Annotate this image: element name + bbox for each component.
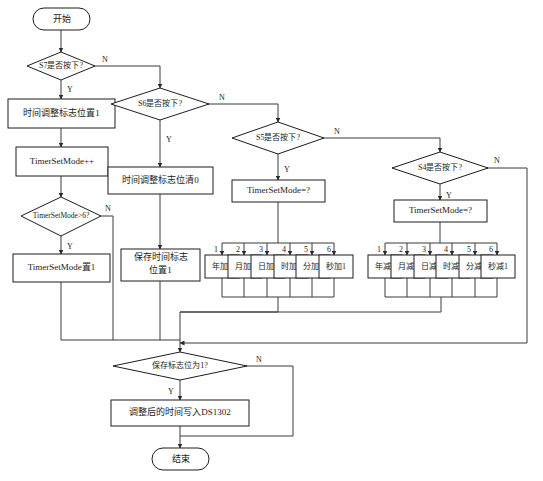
- node-end-label: 结束: [172, 453, 190, 464]
- edge-label-s5-no: N: [334, 127, 340, 136]
- bus-inc-to-merge: [180, 297, 278, 312]
- node-decision-saveflag-label: 保存标志位为1?: [152, 360, 208, 370]
- case-label-inc-6: 6: [327, 245, 331, 254]
- case-label-dec-5: 5: [467, 245, 471, 254]
- edge-s6-no: [208, 104, 278, 122]
- case-label-inc-5: 5: [304, 245, 308, 254]
- edge-s5-no: [323, 138, 440, 152]
- case-label-inc-3: 3: [259, 245, 263, 254]
- case-label-dec-2: 2: [399, 245, 403, 254]
- node-decision-s7-label: S7是否按下?: [39, 60, 83, 70]
- node-decision-s6: S6是否按下?: [111, 88, 209, 120]
- case-box-dec-6-label: 秒减1: [488, 261, 508, 271]
- node-process-mode-query-left: TimerSetMode=?: [232, 180, 325, 202]
- edge-label-mode6-no: N: [105, 204, 111, 213]
- node-decision-s4-label: S4是否按下?: [418, 162, 462, 172]
- case-label-dec-4: 4: [444, 245, 448, 254]
- node-process-saveflag-line2: 位置1: [149, 264, 172, 275]
- bus-dec-to-merge: [180, 297, 441, 312]
- node-process-modeset1-label: TimerSetMode置1: [28, 262, 96, 272]
- flowchart-canvas: 开始 S7是否按下? Y N 时间调整标志位置1 TimerSetMode++ …: [0, 0, 543, 481]
- connector-layer: [61, 30, 527, 448]
- case-label-dec-3: 3: [422, 245, 426, 254]
- node-decision-s6-label: S6是否按下?: [138, 98, 182, 108]
- edge-label-s4-yes: Y: [446, 191, 452, 200]
- node-process-saveflag-line1: 保存时间标志: [134, 251, 188, 262]
- node-decision-saveflag: 保存标志位为1?: [113, 352, 247, 380]
- edge-label-s6-yes: Y: [166, 135, 172, 144]
- increment-case-group: 年加1 1 月加1 2 日加1 3 时加1 4 分加1 5 秒加1 6: [205, 245, 353, 278]
- edge-label-saveflag-no: N: [256, 355, 262, 364]
- node-process-setflag1: 时间调整标志位置1: [8, 99, 115, 128]
- case-label-inc-2: 2: [236, 245, 240, 254]
- edge-label-mode6-yes: Y: [67, 242, 73, 251]
- node-process-write-ds1302-label: 调整后的时间写入DS1302: [129, 406, 231, 417]
- bus-inc-bottom: [222, 278, 334, 297]
- node-process-setflag1-label: 时间调整标志位置1: [23, 107, 100, 118]
- node-process-mode-query-right-label: TimerSetMode=?: [409, 205, 472, 215]
- node-process-saveflag: 保存时间标志 位置1: [121, 249, 200, 281]
- case-label-dec-6: 6: [489, 245, 493, 254]
- case-box-inc-6-label: 秒加1: [326, 261, 346, 271]
- node-decision-mode6-label: TimerSetMode>6?: [33, 211, 90, 220]
- node-process-modeset1: TimerSetMode置1: [13, 254, 110, 282]
- decrement-case-group: 年减1 1 月减1 2 日减1 3 时减1 4 分减1 5 秒减1 6: [368, 245, 515, 278]
- node-process-write-ds1302: 调整后的时间写入DS1302: [111, 400, 249, 426]
- node-end: 结束: [152, 448, 209, 470]
- node-process-modeinc-label: TimerSetMode++: [30, 156, 94, 166]
- edge-label-s7-no: N: [102, 55, 108, 64]
- case-label-inc-1: 1: [214, 245, 218, 254]
- flowchart-svg: 开始 S7是否按下? Y N 时间调整标志位置1 TimerSetMode++ …: [0, 0, 543, 481]
- node-start: 开始: [33, 8, 90, 30]
- edge-s7-no: [94, 66, 160, 88]
- case-box-dec-6: 秒减1 6: [481, 245, 515, 278]
- bus-dec-bottom: [385, 278, 497, 297]
- node-process-clearflag0-label: 时间调整标志位清0: [122, 174, 199, 185]
- node-decision-s5-label: S5是否按下?: [256, 132, 300, 142]
- edge-label-saveflag-yes: Y: [168, 387, 174, 396]
- edge-label-s6-no: N: [219, 93, 225, 102]
- node-start-label: 开始: [53, 13, 71, 24]
- edge-label-s7-yes: Y: [67, 85, 73, 94]
- node-decision-s4: S4是否按下?: [392, 152, 488, 184]
- node-process-mode-query-right: TimerSetMode=?: [394, 200, 487, 222]
- case-label-dec-1: 1: [377, 245, 381, 254]
- case-box-inc-6: 秒加1 6: [319, 245, 353, 278]
- node-decision-s7: S7是否按下?: [27, 52, 95, 80]
- node-process-modeinc: TimerSetMode++: [16, 147, 108, 176]
- case-label-inc-4: 4: [282, 245, 286, 254]
- node-decision-s5: S5是否按下?: [232, 122, 324, 154]
- edge-label-s4-no: N: [494, 156, 500, 165]
- node-decision-mode6: TimerSetMode>6?: [21, 197, 101, 236]
- node-process-clearflag0: 时间调整标志位清0: [108, 167, 213, 194]
- edge-label-s5-yes: Y: [284, 165, 290, 174]
- node-process-mode-query-left-label: TimerSetMode=?: [247, 185, 310, 195]
